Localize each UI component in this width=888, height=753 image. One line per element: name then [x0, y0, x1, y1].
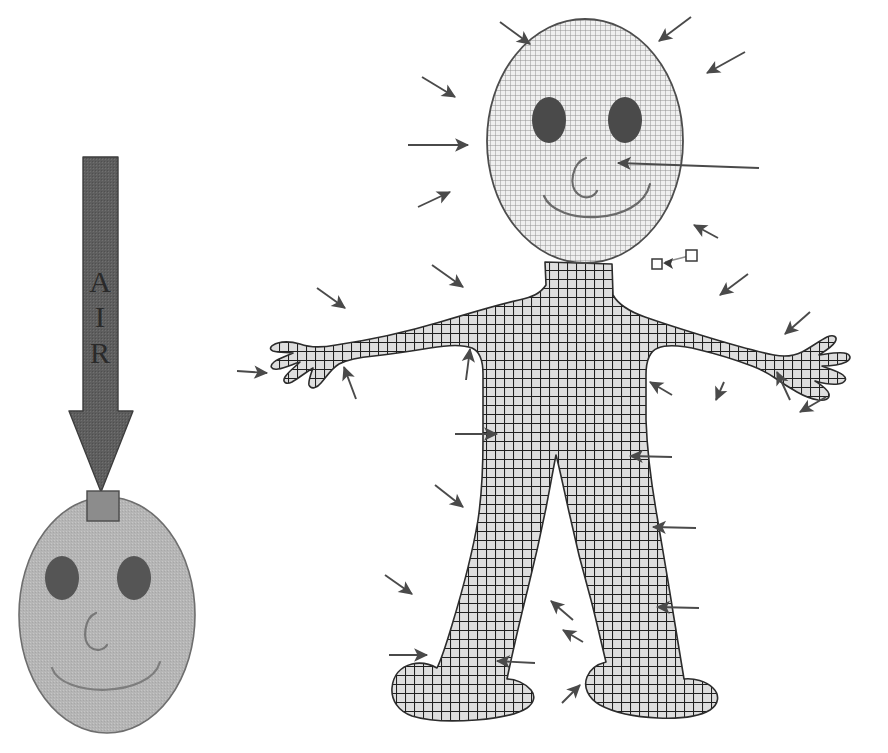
- airflow-arrow: [785, 312, 810, 334]
- airflow-arrow: [466, 349, 470, 380]
- airflow-arrow: [650, 382, 672, 395]
- airflow-arrow: [237, 371, 267, 373]
- diagram-canvas: A I R: [0, 0, 888, 753]
- airflow-manikin-illustration: A I R: [0, 0, 888, 753]
- airflow-arrow: [435, 485, 463, 507]
- sensor-probe-square-left: [652, 259, 662, 269]
- full-body-manikin-group: [271, 19, 850, 721]
- airflow-arrow: [694, 225, 718, 238]
- airflow-arrow: [563, 630, 583, 642]
- airflow-arrow: [551, 601, 573, 620]
- airflow-arrow: [562, 685, 580, 703]
- airflow-arrow: [432, 265, 463, 287]
- head-manikin-face: [19, 497, 195, 733]
- airflow-arrow: [317, 288, 345, 308]
- body-manikin-right-eye: [608, 97, 642, 143]
- airflow-arrow: [385, 575, 412, 594]
- air-label-letter-r: R: [90, 336, 110, 369]
- body-manikin-head: [487, 19, 683, 263]
- airflow-arrow: [344, 367, 356, 399]
- airflow-arrow: [720, 274, 748, 295]
- body-manikin-torso-limbs: [271, 262, 850, 721]
- body-manikin-left-eye: [532, 97, 566, 143]
- airflow-arrow: [707, 52, 745, 73]
- air-label-letter-i: I: [95, 300, 105, 333]
- head-manikin-group: [19, 491, 195, 733]
- head-manikin-right-eye: [117, 556, 151, 600]
- head-manikin-left-eye: [45, 556, 79, 600]
- airflow-arrow: [630, 456, 672, 457]
- head-manikin-air-inlet: [87, 491, 119, 521]
- airflow-arrow: [418, 192, 450, 207]
- airflow-arrow: [657, 607, 699, 608]
- air-label-letter-a: A: [89, 265, 111, 298]
- sensor-probe-marker-group: [652, 250, 697, 269]
- air-supply-arrow-group: A I R: [69, 157, 133, 492]
- airflow-arrow: [500, 22, 530, 44]
- sensor-probe-square-right: [686, 250, 697, 261]
- airflow-arrow: [716, 382, 724, 400]
- airflow-arrow: [659, 17, 691, 41]
- sensor-probe-arrowhead-icon: [663, 258, 673, 269]
- airflow-arrow: [422, 77, 455, 97]
- airflow-arrow: [653, 527, 696, 528]
